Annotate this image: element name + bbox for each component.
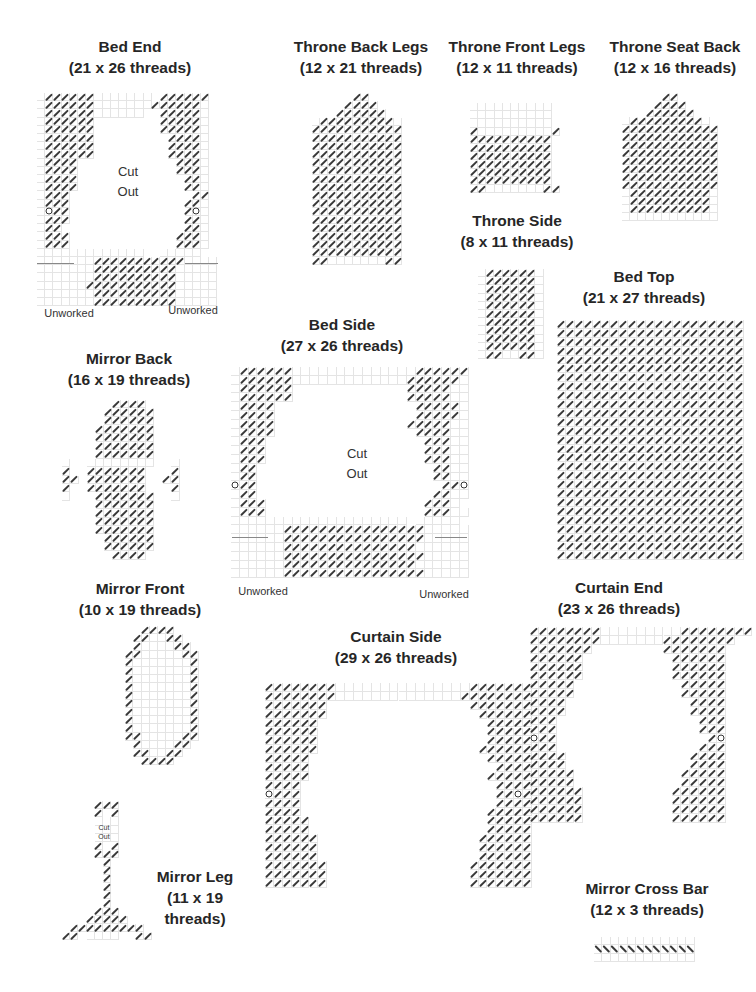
stitch-cell [292, 772, 301, 781]
stitch-cell [678, 117, 686, 125]
stitch-cell [345, 561, 354, 570]
stitch-cell [539, 627, 548, 636]
stitch-cell [610, 418, 619, 427]
stitch-cell [726, 400, 735, 409]
stitch-cell [708, 734, 717, 743]
stitch-cell [62, 232, 70, 240]
stitch-cell [681, 796, 690, 805]
grid-cell [142, 741, 150, 749]
stitch-cell [557, 418, 566, 427]
stitch-cell [519, 310, 527, 318]
grid-cell [310, 367, 319, 376]
stitch-cell [630, 181, 638, 189]
stitch-cell [479, 861, 488, 870]
stitch-cell [548, 654, 557, 663]
grid-cell [416, 517, 425, 526]
grid-cell [53, 290, 61, 298]
stitch-cell [637, 365, 646, 374]
stitch-cell [62, 216, 70, 224]
stitch-cell [519, 335, 527, 343]
stitch-cell [593, 391, 602, 400]
stitch-cell [690, 663, 699, 672]
stitch-cell [265, 710, 274, 719]
stitch-cell [566, 365, 575, 374]
stitch-cell [566, 769, 575, 778]
stitch-cell [337, 208, 345, 216]
grid-cell [240, 534, 249, 543]
stitch-cell [664, 356, 673, 365]
stitch-cell [708, 743, 717, 752]
stitch-cell [283, 710, 292, 719]
stitch-cell [293, 569, 302, 578]
stitch-cell [283, 834, 292, 843]
stitch-cell [646, 205, 654, 213]
grid-cell [133, 675, 141, 683]
stitch-cell [527, 310, 535, 318]
stitch-cell [681, 663, 690, 672]
stitch-cell [345, 159, 353, 167]
stitch-cell [527, 136, 535, 144]
stitch-cell [566, 498, 575, 507]
grid-cell [389, 367, 398, 376]
stitch-cell [112, 442, 120, 450]
stitch-cell [539, 663, 548, 672]
stitch-cell [619, 409, 628, 418]
stitch-cell [557, 445, 566, 454]
stitch-cell [735, 498, 744, 507]
stitch-cell [353, 159, 361, 167]
piece-dimensions: threads) [157, 908, 234, 929]
stitch-cell [345, 200, 353, 208]
stitch-cell [185, 126, 193, 134]
stitch-cell [240, 464, 249, 473]
grid-cell [150, 749, 158, 757]
stitch-cell [129, 543, 137, 551]
stitch-cell [488, 728, 497, 737]
stitch-cell [95, 809, 103, 817]
stitch-cell [584, 436, 593, 445]
stitch-cell [361, 175, 369, 183]
stitch-cell [249, 429, 258, 438]
stitch-cell [470, 692, 479, 701]
stitch-cell [45, 183, 53, 191]
stitch-cell [557, 805, 566, 814]
stitch-cell [548, 707, 557, 716]
stitch-cell [575, 338, 584, 347]
grid-cell [78, 282, 86, 290]
grid-cell [519, 128, 527, 136]
stitch-cell [619, 507, 628, 516]
cut-out-label: Cut [347, 445, 367, 463]
stitch-cell [690, 680, 699, 689]
stitch-cell [378, 118, 386, 126]
stitch-cell [682, 489, 691, 498]
stitch-cell [470, 169, 478, 177]
stitch-cell [486, 335, 494, 343]
stitch-cell [265, 799, 274, 808]
stitch-cell [337, 525, 346, 534]
stitch-cell [176, 109, 184, 117]
stitch-cell [557, 761, 566, 770]
stitch-cell [654, 157, 662, 165]
stitch-cell [292, 710, 301, 719]
stitch-cell [274, 763, 283, 772]
stitch-cell [519, 285, 527, 293]
stitch-cell [369, 241, 377, 249]
stitch-cell [133, 634, 141, 642]
grid-cell [301, 517, 310, 526]
stitch-cell [717, 391, 726, 400]
stitch-cell [514, 736, 523, 745]
grid-cell [142, 700, 150, 708]
stitch-cell [301, 817, 310, 826]
stitch-cell [274, 781, 283, 790]
stitch-cell [583, 636, 592, 645]
stitch-cell [566, 338, 575, 347]
stitch-cell [575, 672, 584, 681]
stitch-cell [160, 93, 168, 101]
stitch-cell [530, 752, 539, 761]
stitch-cell [505, 843, 514, 852]
stitch-cell [557, 498, 566, 507]
stitch-cell [249, 499, 258, 508]
stitch-cell [176, 142, 184, 150]
stitch-cell [274, 728, 283, 737]
stitch-cell [361, 241, 369, 249]
grid-cell [142, 692, 150, 700]
